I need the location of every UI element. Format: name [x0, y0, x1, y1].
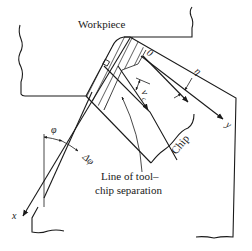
eta-angle-marker-bottom: [174, 94, 181, 98]
y-axis-label: y: [223, 118, 234, 130]
eta-angle-marker-top: [185, 78, 192, 90]
phi-angle-arc: [44, 137, 62, 141]
eta-label: η: [193, 65, 204, 77]
workpiece-label: Workpiece: [78, 18, 125, 30]
shear-plane-line: [44, 92, 92, 198]
separation-line-pointer: [122, 97, 142, 172]
phi-label: φ: [51, 124, 57, 135]
velocity-angle-marker: [136, 80, 140, 90]
origin-label: 0: [145, 47, 155, 59]
chip-flow-arrow: [143, 56, 188, 102]
velocity-subscript: c: [140, 96, 149, 103]
velocity-arrow: [118, 66, 148, 110]
diagram-canvas: Workpiece Chip Line of tool– chip separa…: [0, 0, 252, 251]
x-axis-label: x: [11, 210, 17, 221]
chip-label: Chip: [168, 132, 191, 156]
workpiece-outline-left: [19, 25, 86, 96]
tool-rake-face: [86, 37, 130, 96]
delta-phi-angle-arc: [62, 141, 78, 151]
y-axis-arrow: [141, 56, 223, 119]
velocity-reference-tick: [136, 78, 150, 84]
chip-formation-diagram: Workpiece Chip Line of tool– chip separa…: [0, 0, 252, 251]
workpiece-outline-top: [124, 7, 193, 37]
delta-phi-label: Δφ: [80, 150, 97, 167]
separation-label-line2: chip separation: [95, 184, 162, 196]
separation-label-line1: Line of tool–: [101, 170, 159, 182]
chip-left-edge: [86, 96, 151, 163]
tool-flank-lower: [32, 207, 64, 233]
